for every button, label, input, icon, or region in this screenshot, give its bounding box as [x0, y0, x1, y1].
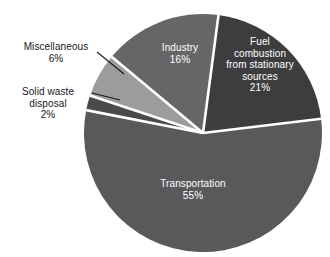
label-miscellaneous: Miscellaneous 6%: [8, 41, 104, 64]
label-industry-percent: 16%: [143, 54, 217, 66]
label-solid-waste-disposal-percent: 2%: [8, 109, 88, 121]
label-industry: Industry 16%: [143, 42, 217, 65]
label-transportation: Transportation 55%: [134, 178, 252, 201]
label-transportation-name: Transportation: [134, 178, 252, 190]
label-fuel-combustion-name: Fuel combustion from stationary sources: [212, 36, 308, 82]
label-solid-waste-disposal-name: Solid waste disposal: [8, 86, 88, 109]
label-solid-waste-disposal: Solid waste disposal 2%: [8, 86, 88, 121]
label-transportation-percent: 55%: [134, 190, 252, 202]
label-miscellaneous-percent: 6%: [8, 53, 104, 65]
label-fuel-combustion: Fuel combustion from stationary sources …: [212, 36, 308, 94]
pie-chart-figure: Transportation 55% Fuel combustion from …: [0, 0, 330, 257]
label-industry-name: Industry: [143, 42, 217, 54]
label-fuel-combustion-percent: 21%: [212, 82, 308, 94]
label-miscellaneous-name: Miscellaneous: [8, 41, 104, 53]
